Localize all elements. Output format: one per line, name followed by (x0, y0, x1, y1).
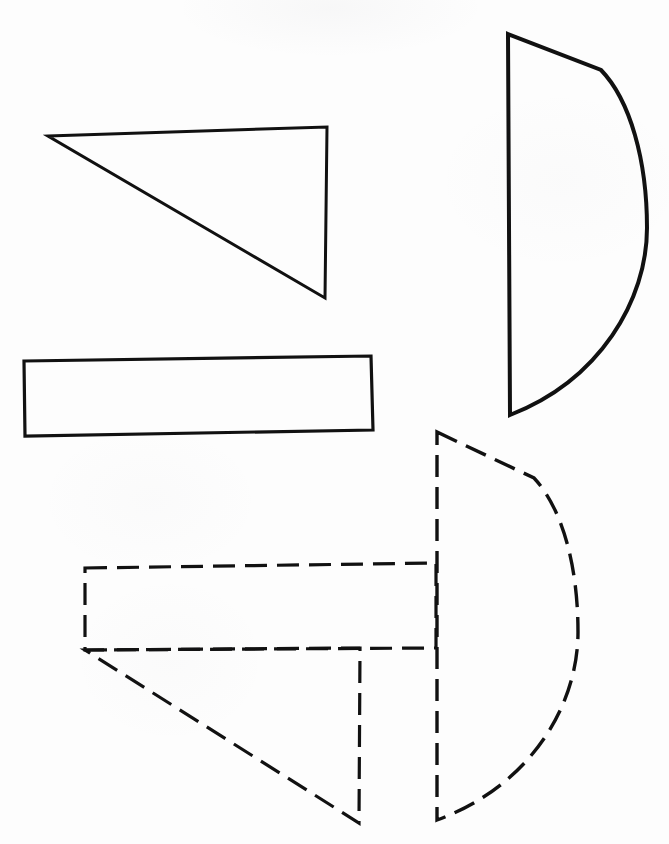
dashed-half-disc (437, 432, 578, 820)
solid-triangle (48, 127, 327, 298)
dashed-rectangle (85, 563, 436, 650)
drawing-sheet (0, 0, 669, 844)
solid-rectangle (24, 356, 373, 436)
solid-half-disc (508, 34, 647, 415)
dashed-triangle (85, 648, 360, 823)
shapes-canvas (0, 0, 669, 844)
